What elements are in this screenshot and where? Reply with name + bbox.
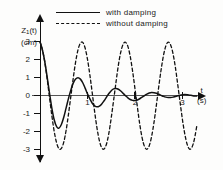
figure-damped-oscillation: with damping without damping Z1(t) (cm) … xyxy=(0,0,223,170)
chart-plot-area xyxy=(0,0,223,170)
series-line-with-damping xyxy=(40,42,197,129)
series-line-without-damping xyxy=(40,42,197,150)
